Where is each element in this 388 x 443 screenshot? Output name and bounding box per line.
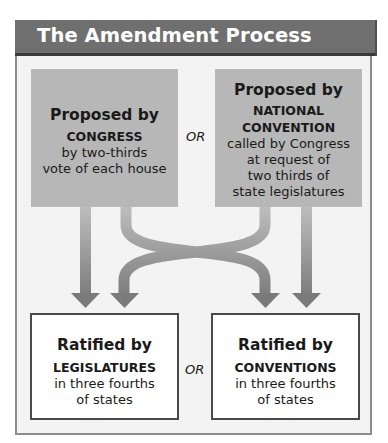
ratification-legislatures-body: LEGISLATURES <box>32 359 177 376</box>
or-label-bottom: OR <box>185 362 204 377</box>
proposal-congress-box: Proposed by CONGRESS by two-thirds vote … <box>31 69 178 207</box>
ratification-conventions-body: CONVENTIONS <box>213 359 358 376</box>
proposal-congress-body: CONGRESS <box>31 128 178 145</box>
ratification-legislatures-lead: Ratified by <box>32 335 177 355</box>
arrow-congress-to-legislatures <box>71 207 100 308</box>
ratification-conventions-text: in three fourths <box>213 376 358 392</box>
ratification-legislatures-box: Ratified by LEGISLATURES in three fourth… <box>30 313 179 420</box>
proposal-convention-text: state legislatures <box>215 184 362 200</box>
proposal-convention-box: Proposed by NATIONAL CONVENTION called b… <box>215 69 362 207</box>
ratification-conventions-text: of states <box>213 392 358 408</box>
arrow-convention-to-conventions <box>292 207 321 308</box>
ratification-conventions-box: Ratified by CONVENTIONS in three fourths… <box>211 313 360 420</box>
proposal-congress-lead: Proposed by <box>31 105 178 125</box>
proposal-congress-text: vote of each house <box>31 161 178 177</box>
ratification-legislatures-text: in three fourths <box>32 376 177 392</box>
ratification-conventions-lead: Ratified by <box>213 335 358 355</box>
proposal-congress-text: by two-thirds <box>31 145 178 161</box>
proposal-convention-text: called by Congress <box>215 136 362 152</box>
ratification-legislatures-text: of states <box>32 392 177 408</box>
proposal-convention-lead: Proposed by <box>215 80 362 100</box>
proposal-convention-body: CONVENTION <box>215 119 362 136</box>
proposal-convention-text: two thirds of <box>215 168 362 184</box>
proposal-convention-text: at request of <box>215 152 362 168</box>
proposal-convention-body: NATIONAL <box>215 102 362 119</box>
or-label-top: OR <box>186 129 205 144</box>
